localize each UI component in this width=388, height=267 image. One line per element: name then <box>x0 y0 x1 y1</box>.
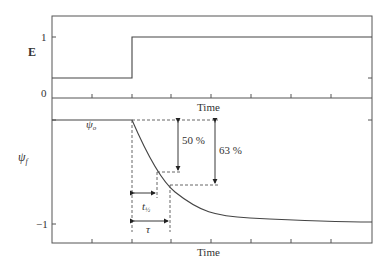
label-t-half: t½ <box>142 200 151 214</box>
e-axis-label: E <box>28 45 36 59</box>
bottom-axis-ticks <box>92 239 331 243</box>
time-label-top: Time <box>197 101 220 113</box>
dashed-guides <box>132 120 218 232</box>
e-step-curve <box>52 37 372 78</box>
psi-axis-label: ψf <box>18 150 29 166</box>
psi-tick-neg1: −1 <box>36 218 48 230</box>
plot-frame <box>52 16 372 243</box>
time-label-bottom: Time <box>197 246 220 258</box>
psi-response-curve <box>52 120 372 222</box>
label-63pct: 63 % <box>219 144 242 156</box>
label-50pct: 50 % <box>182 134 205 146</box>
label-tau: τ <box>146 223 151 235</box>
response-diagram: E 1 0 Time ψf ψo −1 50 % 63 % t½ τ Time <box>0 0 388 267</box>
e-tick-1: 1 <box>41 31 47 43</box>
e-tick-0: 0 <box>41 87 47 99</box>
e-axis-ticks <box>52 37 372 224</box>
